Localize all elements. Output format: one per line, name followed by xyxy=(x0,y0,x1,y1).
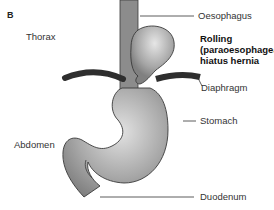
abdomen-label: Abdomen xyxy=(14,139,55,150)
stomach-body xyxy=(63,88,168,197)
diagram-title-line3: hiatus hernia xyxy=(200,55,259,66)
oesophagus-label: Oesophagus xyxy=(198,10,252,21)
diagram-title-line2: (paraoesophageal) xyxy=(200,44,274,55)
duodenum-label: Duodenum xyxy=(200,191,246,202)
panel-label: B xyxy=(7,10,14,20)
diaphragm-right xyxy=(156,75,200,79)
diagram-title-line1: Rolling xyxy=(200,33,232,44)
diaphragm-left xyxy=(65,72,123,79)
diaphragm-label: Diaphragm xyxy=(201,82,247,93)
stomach-label: Stomach xyxy=(200,115,238,126)
thorax-label: Thorax xyxy=(26,31,56,42)
